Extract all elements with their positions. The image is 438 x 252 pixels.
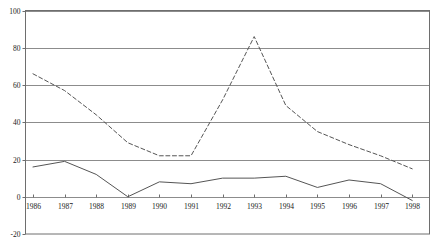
- x-axis-tick-label: 1996: [342, 202, 357, 211]
- x-axis-tick-label: 1997: [374, 202, 389, 211]
- x-axis-tick-label: 1998: [405, 202, 420, 211]
- y-axis-tick-label: -20: [11, 230, 21, 239]
- y-axis-tick-label: 100: [9, 7, 21, 16]
- chart-figure: -20020406080100 198619871988198919901991…: [0, 0, 438, 252]
- x-axis-tick-label: 1993: [247, 202, 262, 211]
- y-axis-tick-label: 60: [13, 81, 21, 90]
- x-axis-tick-label: 1986: [26, 202, 41, 211]
- x-axis-tick-label: 1995: [310, 202, 325, 211]
- x-axis-tick-label: 1994: [279, 202, 294, 211]
- y-axis-tick-label: 40: [13, 118, 21, 127]
- x-axis-tick-label: 1990: [152, 202, 167, 211]
- x-axis-tick-label: 1989: [121, 202, 136, 211]
- y-axis-tick-label: 20: [13, 156, 21, 165]
- line-chart: -20020406080100 198619871988198919901991…: [0, 0, 438, 252]
- chart-background: [0, 0, 438, 252]
- x-axis-tick-label: 1991: [184, 202, 199, 211]
- x-axis-tick-label: 1988: [89, 202, 104, 211]
- x-axis-tick-label: 1992: [216, 202, 231, 211]
- y-axis-tick-label: 0: [17, 193, 21, 202]
- y-axis-tick-label: 80: [13, 44, 21, 53]
- x-axis-tick-label: 1987: [58, 202, 73, 211]
